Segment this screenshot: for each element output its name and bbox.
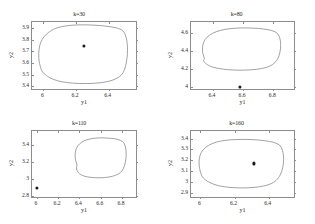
y-tickmark	[294, 51, 296, 52]
y-tickmark	[191, 33, 193, 34]
x-tick-label: 6.8	[269, 92, 276, 98]
y-tickmark	[191, 69, 193, 70]
y-tickmark	[136, 145, 138, 146]
y-tickmark	[191, 139, 193, 140]
y-tickmark	[32, 75, 34, 76]
y-tickmark	[136, 196, 138, 197]
y-tickmark	[294, 139, 296, 140]
y-tick-label: 4	[169, 83, 188, 89]
y-tickmark	[136, 162, 138, 163]
y-tickmark	[294, 149, 296, 150]
y-tick-label: 3.9	[10, 24, 29, 30]
panel-k-30: k=3066.26.43.43.53.63.73.83.9y1y2	[0, 0, 158, 112]
y-axis-label: y2	[8, 153, 14, 173]
y-tick-label: 3.3	[169, 145, 188, 151]
x-tickmark	[269, 131, 270, 133]
y-tickmark	[136, 51, 138, 52]
y-tickmark	[191, 87, 193, 88]
panel-title: k=80	[158, 11, 315, 17]
y-tickmark	[294, 69, 296, 70]
x-tick-label: 6.6	[96, 200, 103, 206]
x-tick-label: 6.6	[239, 92, 246, 98]
x-tick-label: 6.2	[230, 200, 237, 206]
x-tickmark	[76, 22, 77, 24]
y-tickmark	[32, 86, 34, 87]
x-tick-label: 6.2	[72, 92, 79, 98]
x-tick-label: 6	[34, 200, 37, 206]
contour-layer	[191, 131, 294, 197]
y-tickmark	[136, 86, 138, 87]
y-tickmark	[32, 40, 34, 41]
x-tick-label: 6.8	[118, 200, 125, 206]
x-tick-label: 6	[41, 92, 44, 98]
y-tickmark	[191, 51, 193, 52]
y-tickmark	[136, 75, 138, 76]
x-axis-label: y1	[190, 99, 295, 105]
y-tickmark	[294, 87, 296, 88]
panel-k-80: k=806.46.66.844.24.44.6y1y2	[158, 0, 315, 112]
x-tickmark	[200, 131, 201, 133]
x-tickmark	[273, 22, 274, 24]
y-tickmark	[191, 182, 193, 183]
y-tickmark	[136, 40, 138, 41]
contour-curve	[39, 25, 128, 84]
x-tick-label: 6	[198, 200, 201, 206]
y-tickmark	[294, 193, 296, 194]
y-tick-label: 3.4	[10, 82, 29, 88]
x-tickmark	[243, 22, 244, 24]
x-tickmark	[109, 22, 110, 24]
y-tickmark	[136, 179, 138, 180]
y-tick-label: 2.9	[169, 189, 188, 195]
y-tickmark	[191, 149, 193, 150]
y-tickmark	[32, 51, 34, 52]
y-tick-label: 3.4	[169, 135, 188, 141]
y-tickmark	[294, 33, 296, 34]
y-tick-label: 3.4	[10, 141, 29, 147]
figure-multipanel-contour-plots: k=3066.26.43.43.53.63.73.83.9y1y2k=806.4…	[0, 0, 315, 224]
x-axis-label: y1	[31, 99, 137, 105]
y-tickmark	[294, 160, 296, 161]
y-tickmark	[136, 28, 138, 29]
y-tickmark	[191, 171, 193, 172]
y-tick-label: 3	[10, 175, 29, 181]
y-axis-label: y2	[8, 45, 14, 65]
y-tickmark	[191, 160, 193, 161]
x-tickmark	[37, 131, 38, 133]
y-tick-label: 2.8	[10, 192, 29, 198]
y-tickmark	[294, 182, 296, 183]
x-tickmark	[235, 131, 236, 133]
plot-area	[31, 21, 137, 90]
x-axis-label: y1	[31, 207, 137, 213]
y-tickmark	[136, 63, 138, 64]
y-tick-label: 3.8	[10, 36, 29, 42]
contour-layer	[32, 22, 136, 89]
contour-curve	[202, 28, 280, 70]
contour-curve	[199, 139, 284, 187]
y-tick-label: 4.6	[169, 29, 188, 35]
x-tickmark	[79, 131, 80, 133]
y-axis-label: y2	[167, 153, 173, 173]
y-tick-label: 3.5	[10, 71, 29, 77]
y-tickmark	[32, 196, 34, 197]
plot-area	[190, 130, 295, 198]
y-tickmark	[32, 145, 34, 146]
x-tick-label: 6.4	[208, 92, 215, 98]
plot-area	[190, 21, 295, 90]
panel-k-160: k=16066.26.42.933.13.23.33.4y1y2	[158, 110, 315, 224]
panel-k-110: k=11066.26.46.66.82.833.23.4y1y2	[0, 110, 158, 224]
plot-area	[31, 130, 137, 198]
contour-layer	[191, 22, 294, 89]
x-tickmark	[213, 22, 214, 24]
y-tickmark	[32, 162, 34, 163]
contour-layer	[32, 131, 136, 197]
panel-title: k=30	[0, 11, 158, 17]
panel-title: k=110	[0, 120, 158, 126]
x-tickmark	[101, 131, 102, 133]
contour-curve	[75, 138, 126, 178]
y-tickmark	[32, 28, 34, 29]
x-tick-label: 6.4	[75, 200, 82, 206]
y-tickmark	[294, 171, 296, 172]
y-tick-label: 3	[169, 178, 188, 184]
panel-title: k=160	[158, 120, 315, 126]
y-tickmark	[32, 63, 34, 64]
